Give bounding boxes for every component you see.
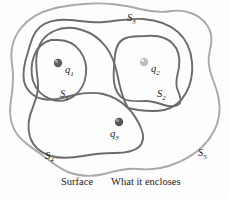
- surface-path-S2: [114, 36, 181, 107]
- caption-encloses-column: What it encloses: [111, 176, 180, 187]
- surface-label-S3: S3: [127, 12, 136, 26]
- surface-path-S3: [23, 19, 192, 111]
- charge-q3: [115, 118, 123, 126]
- charge-dot-q3: [115, 118, 123, 126]
- charge-label-q3: q3: [110, 128, 119, 142]
- caption-surface-column: Surface: [61, 176, 93, 187]
- charge-label-q1: q1: [65, 64, 74, 78]
- charge-dot-q1: [54, 59, 62, 67]
- surface-label-S2: S2: [157, 88, 166, 102]
- figure-caption: Surface What it encloses: [0, 176, 229, 196]
- charge-q2: [140, 58, 148, 66]
- surface-label-S4: S4: [45, 150, 54, 164]
- charge-dot-q2: [140, 58, 148, 66]
- gaussian-surfaces-figure: q1 q2 q3 S1 S2 S3 S4 S5 Surface What it …: [0, 0, 229, 199]
- charge-q1: [54, 59, 62, 67]
- figure-canvas: q1 q2 q3 S1 S2 S3 S4 S5: [0, 0, 229, 199]
- charge-highlight-q1: [55, 60, 58, 63]
- charge-highlight-q2: [141, 59, 144, 62]
- surface-path-S1: [32, 40, 87, 101]
- charge-label-q2: q2: [151, 63, 160, 77]
- charge-highlight-q3: [116, 119, 119, 122]
- surface-label-S5: S5: [198, 147, 207, 161]
